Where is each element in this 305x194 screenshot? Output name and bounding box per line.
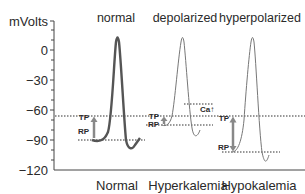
panel-title-depolarized: depolarized: [153, 11, 218, 25]
tick-label-minus-60: −60: [26, 103, 48, 118]
trace-hypokalemia: [232, 38, 269, 162]
rp-label-hypokalemia: RP: [218, 143, 230, 152]
panel-title-normal: normal: [97, 11, 135, 25]
condition-label-hypokalemia: Hypokalemia: [221, 178, 297, 193]
arrow-head-hyperkalemia: [161, 117, 168, 122]
tick-label-minus-30: −30: [26, 73, 48, 88]
arrow-head-hypokalemia: [230, 117, 237, 123]
axis-unit-label: mVolts: [9, 14, 49, 29]
panel-title-hyperpolarized: hyperpolarized: [219, 11, 301, 25]
tp-label-normal: TP: [79, 113, 90, 122]
tick-label-0: 0: [41, 43, 48, 58]
trace-normal: [92, 38, 140, 149]
trace-hyperkalemia: [162, 38, 200, 136]
panel-normal: normal TP RP Normal: [78, 11, 145, 193]
arrow-head-normal: [91, 117, 98, 123]
condition-label-normal: Normal: [96, 178, 138, 193]
tp-label-hypokalemia: TP: [219, 114, 230, 123]
panel-hyperkalemia: depolarized TP RP Ca↑ Hyperkalemia: [146, 11, 229, 193]
condition-label-hyperkalemia: Hyperkalemia: [148, 178, 228, 193]
ca-label-hyperkalemia: Ca↑: [200, 105, 214, 114]
action-potential-diagram: mVolts 0 −30 −60 −90 −120 normal TP RP N…: [0, 0, 305, 194]
y-axis: [50, 21, 305, 170]
tick-label-minus-120: −120: [19, 163, 48, 178]
rp-label-normal: RP: [78, 127, 90, 136]
tick-label-minus-90: −90: [26, 133, 48, 148]
rp-label-hyperkalemia: RP: [148, 120, 160, 129]
panel-hypokalemia: hyperpolarized TP RP Hypokalemia: [218, 11, 301, 193]
